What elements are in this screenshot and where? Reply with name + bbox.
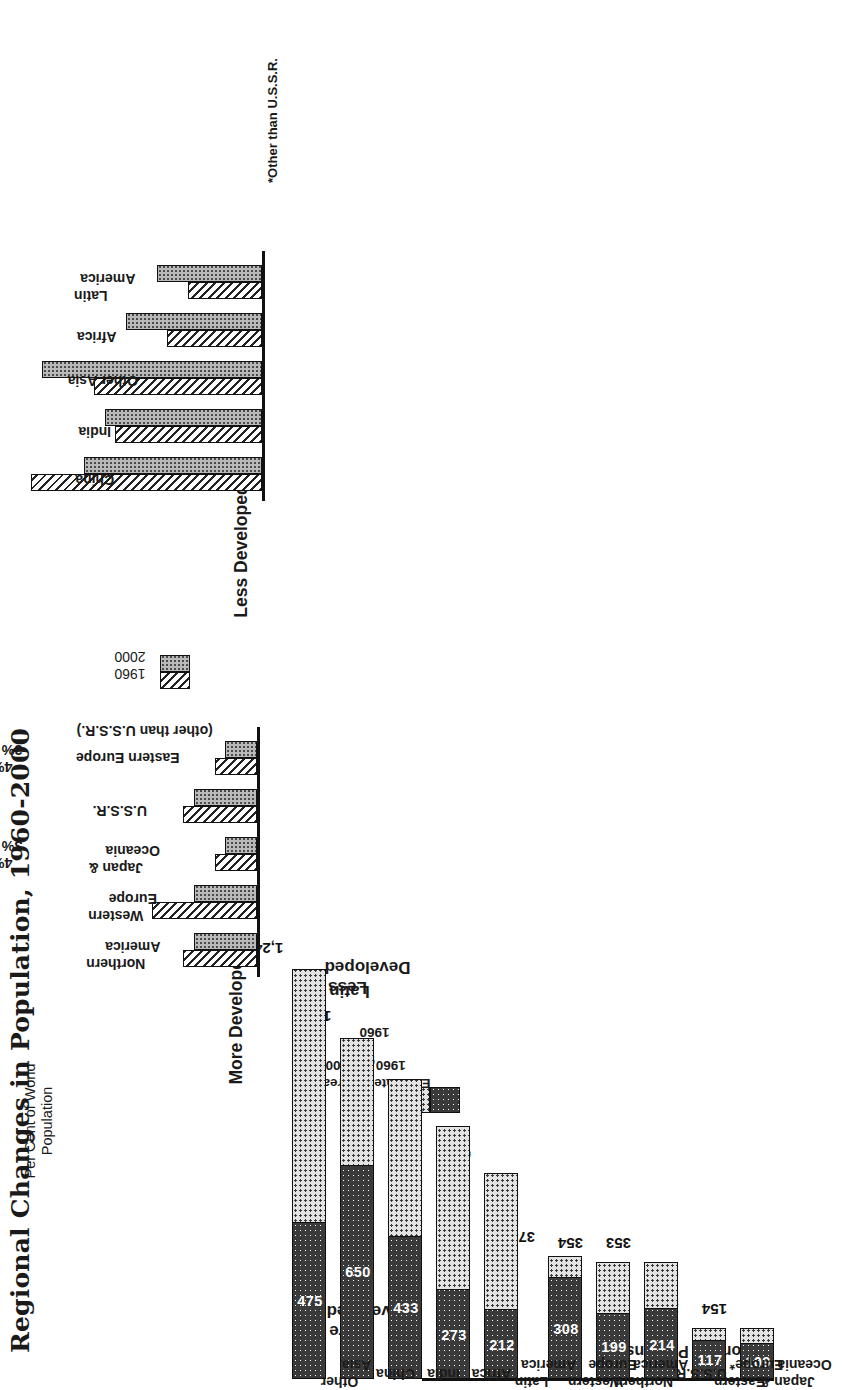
bar-row: 433 908: [388, 1079, 422, 1379]
pct-label-1960: 4%: [0, 759, 32, 775]
percent-axis-label-line1: Per Cent of World: [22, 1021, 39, 1221]
pct-label-2000: 3%: [0, 838, 42, 854]
pct-category-line1: Western: [70, 907, 162, 923]
pct-label-2000: 6%: [0, 886, 11, 902]
bar-value-1960: 212: [481, 1337, 523, 1353]
legend-swatch-1960: [160, 672, 190, 689]
pct-category-line1: India: [49, 423, 141, 439]
pct-bar-1960: [215, 854, 257, 871]
pct-label-2000: 6%: [0, 790, 11, 806]
percent-axis-label-line2: Population: [39, 1021, 56, 1221]
pct-category-line1: Other Asia: [48, 372, 158, 388]
pct-label-2000: 6%: [0, 934, 11, 950]
legend-label-2000: 2000: [100, 649, 160, 665]
pct-category-line1: Northern: [70, 955, 162, 971]
bar-value-1960: 273: [433, 1327, 475, 1343]
bar-value-1960: 308: [545, 1321, 587, 1337]
pct-bar-2000: [157, 265, 262, 282]
bar-row: 273 768: [436, 1126, 470, 1379]
pct-category-line1: Japan &: [70, 859, 162, 875]
pct-category-line1: Eastern Europe: [63, 749, 193, 765]
pct-category-line2: America: [87, 938, 179, 954]
percent-axis-label: Per Cent of World Population: [22, 1021, 56, 1221]
pct-category-line1: Africa: [51, 328, 143, 344]
bar-value-1960: 214: [641, 1337, 683, 1353]
legend-label-1960: 1960: [100, 666, 160, 682]
pct-bar-2000: [225, 741, 257, 758]
pct-category-line2: America: [62, 270, 154, 286]
bar-row: 212 624: [484, 1173, 518, 1379]
pct-bar-1960: [183, 950, 257, 967]
pct-bar-2000: [225, 837, 257, 854]
pct-category-line2: Europe: [87, 890, 179, 906]
more-developed-percent-chart: More Developed 7% 6% Northern America 10…: [60, 727, 260, 977]
bar-value-1960: 433: [385, 1300, 427, 1316]
pct-bar-2000: [194, 933, 257, 950]
pct-bar-1960: [183, 806, 257, 823]
legend-swatch-2000: [160, 655, 190, 672]
pct-category-line2: (other than U.S.S.R.): [70, 722, 220, 738]
millions-bar-chart: Millions of Persons Estimated Increase 1…: [360, 681, 850, 1381]
bar-value-1960: 199: [593, 1339, 635, 1355]
pct-bar-2000: [126, 313, 262, 330]
pct-category-line1: Latin: [45, 287, 137, 303]
pct-label-1960: 4%: [0, 855, 32, 871]
percent-charts-panel: Per Cent of World Population 1960 2000 M…: [0, 0, 360, 1381]
pct-bar-1960: [215, 758, 257, 775]
pct-label-2000: 3%: [0, 742, 42, 758]
chart-baseline: [262, 251, 265, 501]
pct-bar-1960: [188, 282, 262, 299]
pct-category-line2: Oceania: [87, 842, 179, 858]
pct-category-line1: U.S.S.R.: [74, 802, 166, 818]
footnote: *Other than U.S.S.R.: [265, 58, 280, 183]
chart-baseline: [257, 727, 260, 977]
pct-category-line1: China: [49, 471, 141, 487]
pct-bar-1960: [167, 330, 262, 347]
legend-label-1960: 1960: [360, 1025, 500, 1040]
pct-bar-2000: [194, 885, 257, 902]
less-developed-percent-chart: Less Developed 22% 17% China 14% 15% Ind…: [35, 251, 265, 501]
pct-bar-2000: [194, 789, 257, 806]
